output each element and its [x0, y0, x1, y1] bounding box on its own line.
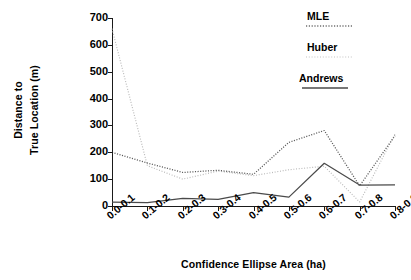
legend-label-mle: MLE	[307, 10, 403, 22]
dotted-light-line-sample	[306, 55, 352, 59]
solid-line-sample	[302, 86, 348, 90]
y-tick-label: 700	[74, 12, 108, 23]
y-tick-label: 200	[74, 146, 108, 157]
y-axis-tick	[108, 18, 113, 19]
x-axis-title: Confidence Ellipse Area (ha)	[112, 258, 395, 270]
legend-entry-huber: Huber	[298, 41, 403, 72]
y-axis-tick-labels: 0100200300400500600700	[74, 0, 108, 280]
dotted-line-sample	[306, 24, 352, 28]
legend-label-huber: Huber	[307, 41, 403, 53]
chart-legend: MLE Huber Andrews	[298, 10, 403, 103]
y-axis-tick	[108, 99, 113, 100]
y-axis-tick	[108, 152, 113, 153]
legend-entry-mle: MLE	[298, 10, 403, 41]
y-axis-title-group: Distance to True Location (m)	[0, 28, 72, 208]
legend-label-andrews: Andrews	[299, 72, 403, 84]
y-tick-label: 400	[74, 93, 108, 104]
y-axis-tick	[108, 179, 113, 180]
y-tick-label: 0	[74, 200, 108, 211]
y-axis-tick	[108, 125, 113, 126]
series-line-andrews	[112, 163, 395, 202]
x-axis-tick-labels: 0.0-0.10.1-0.20.2-0.30.3-0.40.4-0.50.5-0…	[112, 206, 411, 258]
legend-entry-andrews: Andrews	[298, 72, 403, 103]
chart-figure: Distance to True Location (m) 0100200300…	[0, 0, 411, 280]
y-axis-title-line-2: True Location (m)	[28, 52, 40, 168]
y-axis-tick	[108, 45, 113, 46]
y-tick-label: 100	[74, 173, 108, 184]
y-axis-tick	[108, 72, 113, 73]
series-line-mle	[112, 131, 395, 186]
y-axis-title-line-1: Distance to	[12, 52, 24, 168]
y-tick-label: 300	[74, 119, 108, 130]
y-tick-label: 600	[74, 39, 108, 50]
y-tick-label: 500	[74, 66, 108, 77]
